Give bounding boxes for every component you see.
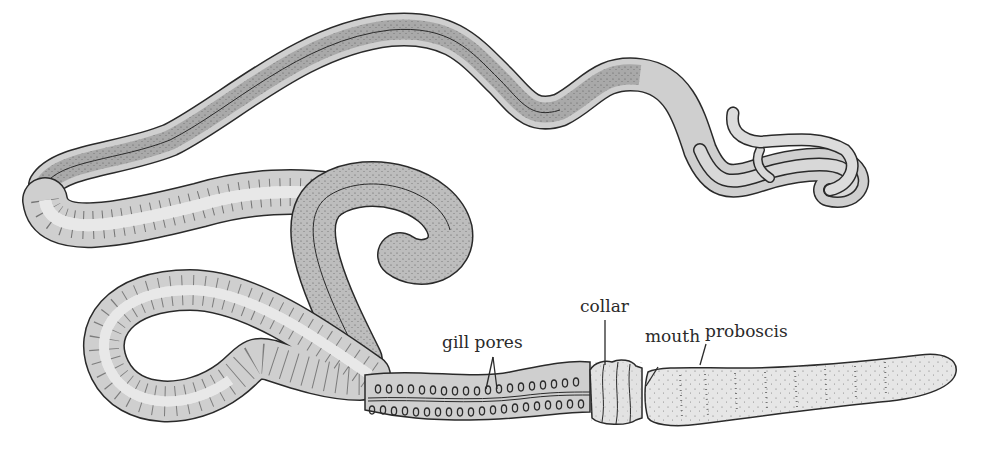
- collar-label: collar: [580, 298, 629, 315]
- gill-pores-label: gill pores: [442, 334, 523, 351]
- proboscis-label: proboscis: [705, 323, 788, 340]
- upper-trunk-loop: [45, 29, 852, 191]
- mouth-label: mouth: [645, 328, 700, 345]
- branchial-region: [365, 361, 590, 420]
- proboscis: [645, 354, 956, 425]
- proboscis-leader: [700, 344, 706, 365]
- middle-trunk-band: [45, 192, 330, 225]
- worm-illustration: [0, 0, 996, 463]
- collar: [590, 360, 642, 424]
- acorn-worm-diagram: gill pores collar mouth proboscis: [0, 0, 996, 463]
